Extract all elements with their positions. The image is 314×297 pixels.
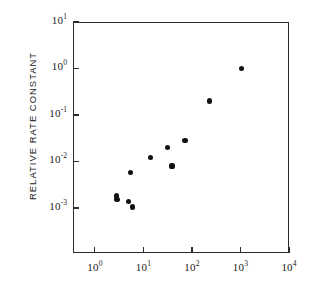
x-axis-tick bbox=[94, 247, 95, 253]
plot-axes-frame bbox=[73, 22, 289, 253]
scatter-point bbox=[169, 163, 174, 168]
scatter-point bbox=[126, 199, 131, 204]
scatter-point bbox=[114, 197, 119, 202]
x-axis-tick bbox=[191, 247, 192, 253]
y-axis-ticklabel: 101 bbox=[29, 15, 67, 26]
figure-canvas: 10-310-210-1100101 100101102103104 RELAT… bbox=[0, 0, 314, 297]
x-axis-ticklabel: 103 bbox=[220, 262, 260, 273]
y-axis-tick bbox=[73, 68, 79, 69]
scatter-point bbox=[165, 145, 170, 150]
scatter-point bbox=[182, 138, 187, 143]
x-axis-ticklabel: 101 bbox=[123, 262, 163, 273]
scatter-point bbox=[130, 204, 135, 209]
x-axis-ticklabel: 100 bbox=[75, 262, 115, 273]
y-axis-tick bbox=[73, 114, 79, 115]
y-axis-ticklabel: 10-3 bbox=[29, 201, 67, 212]
x-axis-ticklabel: 104 bbox=[269, 262, 309, 273]
y-axis-tick bbox=[73, 161, 79, 162]
x-axis-ticklabel: 102 bbox=[172, 262, 212, 273]
y-axis-title: RELATIVE RATE CONSTANT bbox=[28, 51, 37, 199]
x-axis-tick bbox=[288, 247, 289, 253]
y-axis-tick bbox=[73, 207, 79, 208]
scatter-point bbox=[207, 98, 212, 103]
x-axis-tick bbox=[240, 247, 241, 253]
y-axis-tick bbox=[73, 21, 79, 22]
x-axis-tick bbox=[143, 247, 144, 253]
